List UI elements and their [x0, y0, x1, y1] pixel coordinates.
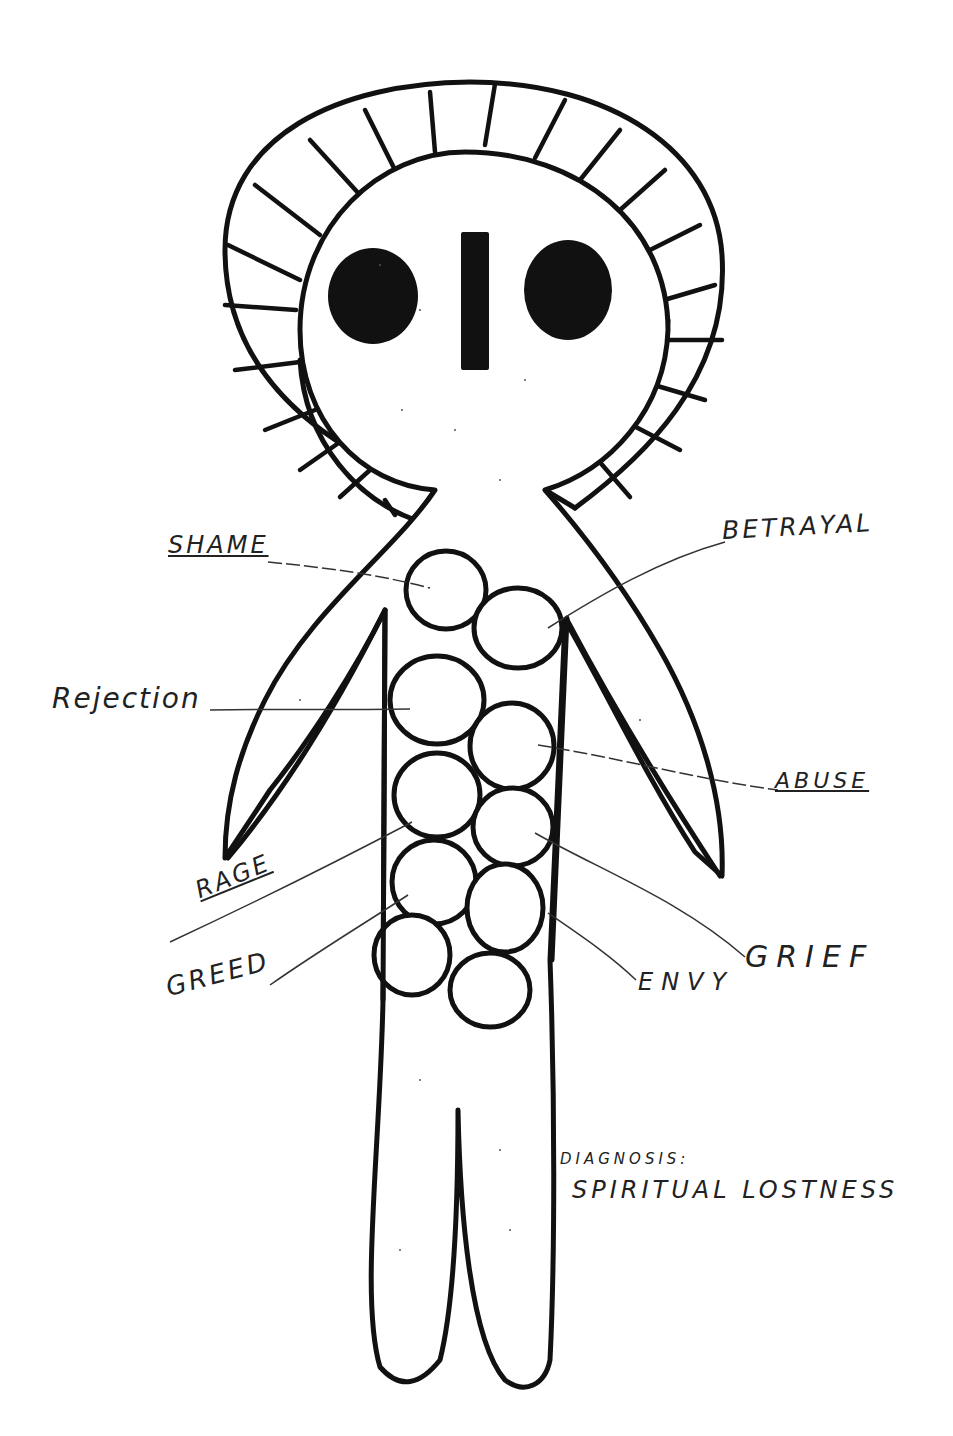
stone-rejection — [390, 656, 484, 744]
label-shame: SHAME — [168, 533, 269, 557]
stone-grief — [473, 788, 553, 866]
figure-drawing — [0, 0, 953, 1436]
diagnosis-heading: DIAGNOSIS: — [560, 1152, 689, 1167]
right-eye — [524, 240, 612, 340]
stone-envy — [467, 864, 543, 952]
label-rejection: Rejection — [52, 685, 201, 713]
label-betrayal: BETRAYAL — [721, 510, 873, 543]
label-grief: GRIEF — [745, 942, 874, 972]
left-eye — [328, 248, 418, 344]
nose — [461, 232, 489, 370]
stone-lower-right — [450, 953, 530, 1027]
label-abuse: ABUSE — [775, 770, 869, 792]
stone-greed — [392, 840, 476, 924]
label-envy: ENVY — [638, 970, 734, 994]
diagnosis-value: SPIRITUAL LOSTNESS — [572, 1178, 898, 1202]
